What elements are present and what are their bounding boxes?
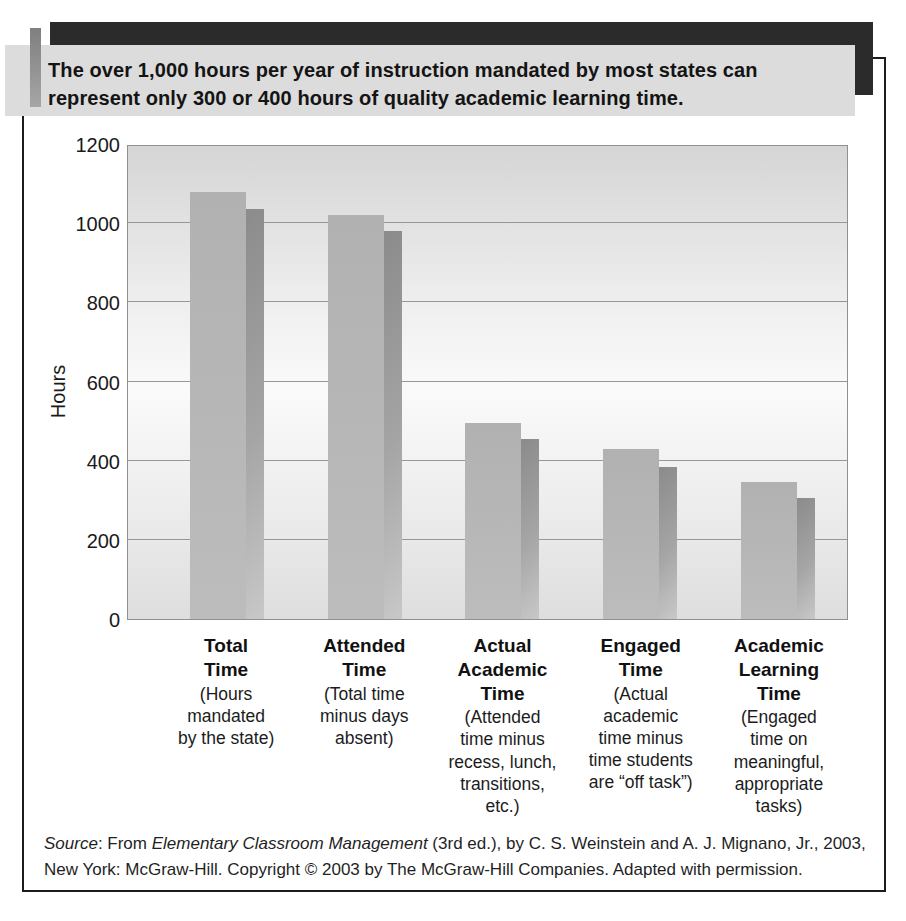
x-axis-label-title: Engaged Time	[572, 634, 710, 682]
x-axis-label-desc: (Engaged time on meaningful, appropriate…	[710, 706, 848, 817]
source-label: Source	[44, 834, 98, 853]
y-tick-label-600: 600	[20, 372, 120, 395]
x-axis-label-4: Engaged Time(Actual academic time minus …	[572, 634, 710, 817]
bar-group-1	[158, 146, 296, 619]
y-axis-ticks: 020040060080010001200	[20, 145, 120, 620]
bar-1	[190, 192, 246, 620]
x-axis-label-1: Total Time(Hours mandated by the state)	[157, 634, 295, 817]
source-mid: : From	[98, 834, 152, 853]
bar-group-5	[709, 146, 847, 619]
x-axis-label-desc: (Total time minus days absent)	[295, 683, 433, 750]
bar-shadow-5	[797, 498, 815, 619]
x-axis-label-title: Attended Time	[295, 634, 433, 682]
x-axis-label-3: Actual Academic Time(Attended time minus…	[433, 634, 571, 817]
accent-stripe	[30, 28, 41, 107]
x-axis-label-title: Actual Academic Time	[433, 634, 571, 705]
bar-group-4	[571, 146, 709, 619]
source-note: Source: From Elementary Classroom Manage…	[44, 831, 868, 882]
bar-shadow-3	[521, 439, 539, 619]
figure-canvas: The over 1,000 hours per year of instruc…	[0, 0, 906, 921]
y-tick-label-0: 0	[20, 609, 120, 632]
x-axis-label-5: Academic Learning Time(Engaged time on m…	[710, 634, 848, 817]
x-axis-label-desc: (Attended time minus recess, lunch, tran…	[433, 706, 571, 817]
bars-row	[128, 146, 847, 619]
bar-4	[603, 449, 659, 619]
y-tick-label-1000: 1000	[20, 213, 120, 236]
caption-box: The over 1,000 hours per year of instruc…	[5, 45, 855, 116]
x-axis-label-2: Attended Time(Total time minus days abse…	[295, 634, 433, 817]
y-tick-label-800: 800	[20, 292, 120, 315]
x-axis-label-title: Academic Learning Time	[710, 634, 848, 705]
bar-3	[465, 423, 521, 619]
y-tick-label-1200: 1200	[20, 134, 120, 157]
bar-2	[328, 215, 384, 619]
x-axis-label-desc: (Hours mandated by the state)	[157, 683, 295, 750]
plot-area	[127, 145, 848, 620]
bar-shadow-1	[246, 209, 264, 619]
bar-group-2	[296, 146, 434, 619]
bar-shadow-2	[384, 231, 402, 619]
x-axis-label-title: Total Time	[157, 634, 295, 682]
bar-group-3	[434, 146, 572, 619]
x-axis-labels: Total Time(Hours mandated by the state)A…	[127, 634, 848, 817]
y-tick-label-400: 400	[20, 451, 120, 474]
x-axis-label-desc: (Actual academic time minus time student…	[572, 683, 710, 794]
bar-5	[741, 482, 797, 619]
figure-caption: The over 1,000 hours per year of instruc…	[48, 56, 835, 113]
source-book-title: Elementary Classroom Management	[152, 834, 428, 853]
y-tick-label-200: 200	[20, 530, 120, 553]
bar-shadow-4	[659, 467, 677, 619]
